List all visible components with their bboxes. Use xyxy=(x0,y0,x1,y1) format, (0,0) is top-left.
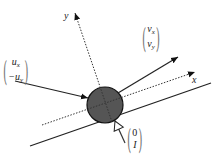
outgoing-velocity-vector: ( vx vy ) xyxy=(142,23,160,53)
collision-diagram: y x ( ux −uy ) ( vx vy ) ( 0 I ) xyxy=(0,0,217,160)
component-top: ux xyxy=(12,56,20,71)
y-axis-label: y xyxy=(64,11,68,21)
incoming-velocity-vector: ( ux −uy ) xyxy=(3,56,28,86)
impulse-arrow xyxy=(115,121,125,143)
component-top: vx xyxy=(147,23,155,38)
vector-components: ux −uy xyxy=(7,56,24,86)
component-bottom: vy xyxy=(147,38,155,53)
component-bottom: −uy xyxy=(8,71,23,86)
impulse-vector: ( 0 I ) xyxy=(127,127,143,151)
left-paren: ( xyxy=(3,57,7,86)
ball xyxy=(87,87,123,123)
vector-components: 0 I xyxy=(131,127,138,151)
right-paren: ) xyxy=(24,57,28,86)
vector-components: vx vy xyxy=(146,23,156,53)
x-axis-label: x xyxy=(192,75,196,85)
right-paren: ) xyxy=(156,24,160,53)
outgoing-velocity-arrow xyxy=(118,57,178,93)
left-paren: ( xyxy=(127,125,131,154)
component-bottom: I xyxy=(133,139,136,151)
diagram-canvas xyxy=(0,0,217,160)
right-paren: ) xyxy=(138,125,142,154)
component-top: 0 xyxy=(132,127,137,139)
left-paren: ( xyxy=(142,24,146,53)
